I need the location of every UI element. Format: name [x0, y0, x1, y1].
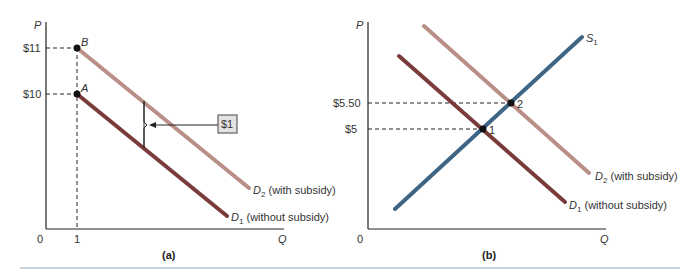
d2-label: D2 (with subsidy) — [595, 170, 678, 185]
x-axis-title: Q — [278, 233, 287, 245]
point-2 — [508, 100, 515, 107]
point-2-label: 2 — [517, 98, 523, 110]
panel-b: P Q 0 $5.50 $5 1 2 S1 D2 (with subsidy) … — [333, 19, 678, 261]
point-1 — [480, 126, 487, 133]
d2-label: D2 (with subsidy) — [253, 184, 336, 199]
figure: P Q 0 1 $11 $10 B A $1 D2 (with subsidy)… — [0, 0, 700, 280]
origin-label: 0 — [357, 233, 363, 245]
point-b-label: B — [81, 36, 88, 48]
x-axis-title: Q — [600, 233, 609, 245]
y-axis-title: P — [34, 19, 42, 31]
d1-label: D1 (without subsidy) — [231, 211, 329, 226]
d1-curve — [77, 94, 227, 216]
y-tick-5: $5 — [345, 123, 357, 135]
origin-label: 0 — [37, 233, 43, 245]
panel-b-caption: (b) — [482, 249, 496, 261]
d1-label: D1 (without subsidy) — [569, 199, 667, 214]
point-a — [74, 91, 81, 98]
x-tick-1: 1 — [74, 233, 80, 245]
y-tick-11: $11 — [23, 42, 41, 54]
s1-curve — [395, 37, 582, 209]
subsidy-box-label: $1 — [221, 118, 233, 130]
point-1-label: 1 — [489, 124, 495, 136]
point-b — [74, 45, 81, 52]
panel-a-caption: (a) — [162, 249, 176, 261]
y-tick-10: $10 — [23, 88, 41, 100]
arrow-head-icon — [149, 122, 156, 128]
s1-label: S1 — [586, 32, 598, 47]
y-axis-title: P — [356, 19, 364, 31]
panel-a: P Q 0 1 $11 $10 B A $1 D2 (with subsidy)… — [23, 19, 336, 261]
point-a-label: A — [80, 82, 88, 94]
y-tick-550: $5.50 — [333, 97, 361, 109]
